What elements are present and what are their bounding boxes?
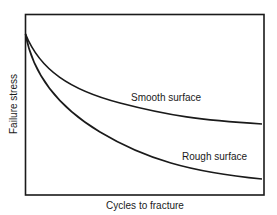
plot-frame bbox=[26, 15, 265, 196]
x-axis-label: Cycles to fracture bbox=[0, 200, 277, 212]
chart-canvas bbox=[0, 0, 277, 215]
rough-surface-label: Rough surface bbox=[182, 151, 247, 163]
smooth-surface-curve bbox=[26, 34, 263, 124]
smooth-surface-label: Smooth surface bbox=[131, 92, 201, 104]
y-axis-label: Failure stress bbox=[8, 74, 20, 134]
